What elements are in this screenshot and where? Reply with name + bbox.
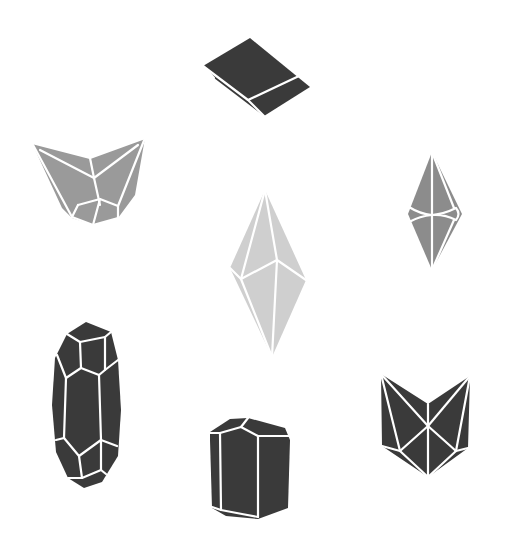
- crystal-funnel: [32, 138, 145, 225]
- crystal-twin: [381, 374, 470, 477]
- crystal-forms-figure: [0, 0, 515, 552]
- crystal-elongated-prism: [52, 322, 121, 488]
- crystal-dipyramid-right: [408, 152, 462, 270]
- crystal-bipyramid-center: [230, 190, 306, 357]
- crystal-tabular: [203, 38, 310, 116]
- crystal-short-prism: [210, 418, 290, 519]
